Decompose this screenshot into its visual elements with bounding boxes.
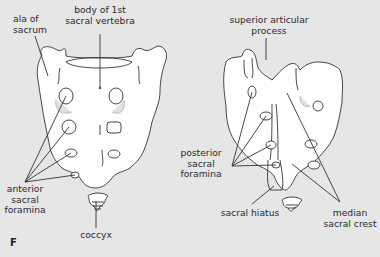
posterior-sacrum-drawing: [224, 38, 343, 211]
label-posterior-sacral-foramina: posterior sacral foramina: [175, 148, 227, 180]
panel-letter: F: [10, 237, 17, 248]
label-body-of-1st-sacral-vertebra: body of 1st sacral vertebra: [55, 5, 145, 26]
label-coccyx: coccyx: [76, 230, 116, 241]
label-superior-articular-process: superior articular process: [224, 15, 314, 36]
label-median-sacral-crest: median sacral crest: [320, 208, 380, 229]
label-anterior-sacral-foramina: anterior sacral foramina: [0, 184, 50, 216]
label-sacral-hiatus: sacral hiatus: [210, 208, 290, 219]
label-ala-of-sacrum: ala of sacrum: [13, 14, 47, 35]
